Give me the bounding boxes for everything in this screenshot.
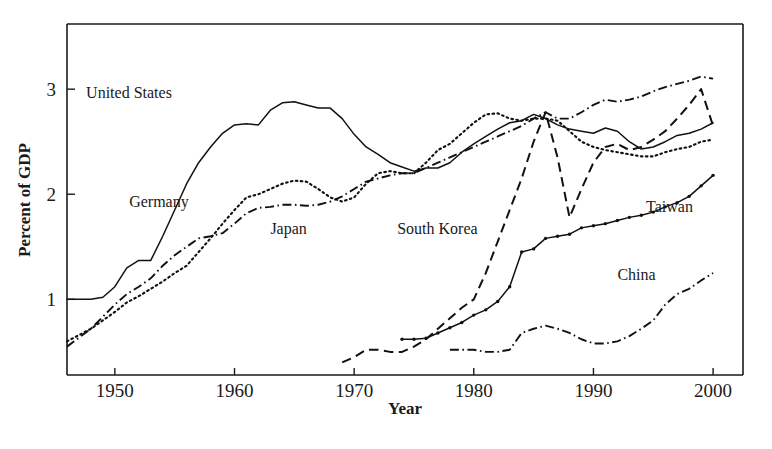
series-point xyxy=(460,321,463,324)
series-germany xyxy=(67,113,713,341)
series-label-china: China xyxy=(617,266,655,283)
y-axis-tick-labels: 123 xyxy=(47,79,57,310)
series-point xyxy=(568,232,571,235)
series-point xyxy=(412,338,415,341)
series-point xyxy=(556,235,559,238)
series-point xyxy=(640,214,643,217)
series-line xyxy=(67,77,713,347)
series-label-south-korea: South Korea xyxy=(397,220,477,237)
series-point xyxy=(616,219,619,222)
x-tick-label-1950: 1950 xyxy=(96,380,134,401)
y-axis-ticks xyxy=(67,89,75,299)
x-axis-ticks xyxy=(115,368,713,375)
chart-figure: 123 195019601970198019902000 United Stat… xyxy=(0,0,772,449)
series-point xyxy=(628,216,631,219)
x-tick-label-2000: 2000 xyxy=(694,380,732,401)
series-point xyxy=(508,285,511,288)
series-point xyxy=(424,337,427,340)
x-tick-label-1960: 1960 xyxy=(216,380,254,401)
series-point xyxy=(699,184,702,187)
series-china xyxy=(450,273,713,352)
x-axis-tick-labels: 195019601970198019902000 xyxy=(96,380,732,401)
y-tick-label-2: 2 xyxy=(47,184,57,205)
series-label-germany: Germany xyxy=(129,193,189,211)
series-japan xyxy=(67,77,713,347)
series-point xyxy=(400,338,403,341)
x-axis-title: Year xyxy=(388,399,422,418)
series-point xyxy=(711,174,714,177)
series-point xyxy=(484,308,487,311)
data-series-group xyxy=(67,77,715,363)
series-point xyxy=(544,237,547,240)
series-point xyxy=(520,250,523,253)
series-label-japan: Japan xyxy=(270,220,306,238)
y-axis-title: Percent of GDP xyxy=(15,143,34,257)
series-label-taiwan: Taiwan xyxy=(646,198,693,215)
series-point xyxy=(580,226,583,229)
series-point xyxy=(448,326,451,329)
series-line xyxy=(450,273,713,352)
series-point xyxy=(532,247,535,250)
series-point xyxy=(472,313,475,316)
x-tick-label-1980: 1980 xyxy=(455,380,493,401)
series-label-united-states: United States xyxy=(86,84,172,101)
series-point xyxy=(604,222,607,225)
series-line xyxy=(67,113,713,341)
y-tick-label-3: 3 xyxy=(47,79,57,100)
series-point xyxy=(436,331,439,334)
y-tick-label-1: 1 xyxy=(47,289,57,310)
series-point xyxy=(496,300,499,303)
series-point xyxy=(592,224,595,227)
x-tick-label-1970: 1970 xyxy=(335,380,373,401)
rd-expenditure-line-chart: 123 195019601970198019902000 United Stat… xyxy=(0,0,772,449)
x-tick-label-1990: 1990 xyxy=(574,380,612,401)
